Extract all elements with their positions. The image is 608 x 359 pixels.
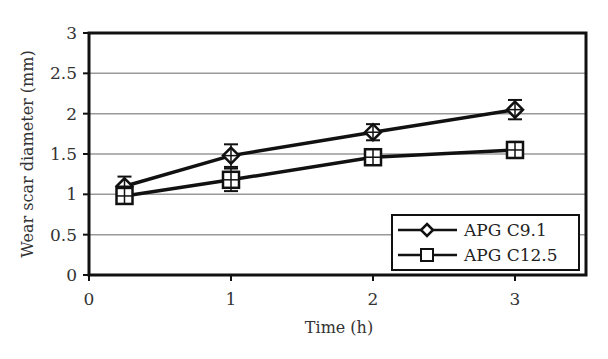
y-axis-ticks: 00.511.522.53 bbox=[50, 23, 89, 285]
y-tick-label: 2.5 bbox=[50, 63, 77, 83]
x-tick-label: 3 bbox=[510, 289, 521, 309]
y-tick-label: 2 bbox=[66, 104, 77, 124]
y-axis-label: Wear scar diameter (mm) bbox=[18, 50, 37, 257]
x-tick-label: 1 bbox=[226, 289, 237, 309]
square-icon bbox=[421, 249, 433, 261]
legend: APG C9.1APG C12.5 bbox=[392, 215, 579, 270]
x-tick-label: 2 bbox=[368, 289, 379, 309]
y-tick-label: 3 bbox=[66, 23, 77, 43]
x-tick-label: 0 bbox=[84, 289, 95, 309]
x-axis-ticks: 0123 bbox=[84, 275, 521, 309]
x-axis-label: Time (h) bbox=[305, 318, 373, 337]
legend-label: APG C9.1 bbox=[463, 220, 547, 240]
y-tick-label: 1 bbox=[66, 184, 77, 204]
legend-item: APG C12.5 bbox=[398, 245, 558, 265]
y-tick-label: 1.5 bbox=[50, 144, 77, 164]
wear-scar-chart: 00.511.522.53 0123 Time (h) Wear scar di… bbox=[0, 0, 608, 359]
legend-label: APG C12.5 bbox=[463, 245, 558, 265]
y-tick-label: 0 bbox=[66, 265, 77, 285]
data-series bbox=[117, 100, 524, 204]
y-tick-label: 0.5 bbox=[50, 225, 77, 245]
